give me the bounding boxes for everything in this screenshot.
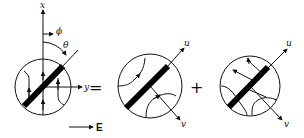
panel-middle: u v [118, 38, 190, 129]
field-line [58, 78, 64, 105]
sample-bar [229, 67, 268, 107]
u-axis-label: u [286, 38, 292, 48]
phi-label: ϕ [56, 26, 62, 36]
sample-bar [126, 66, 168, 108]
field-label: E [96, 122, 103, 133]
v-axis-label: v [284, 119, 289, 129]
theta-label: θ [63, 40, 69, 50]
field-line [248, 58, 262, 74]
field-arrow [233, 70, 254, 81]
v-axis [150, 86, 180, 120]
panel-right: u v [220, 38, 292, 129]
field-arrow [248, 58, 249, 64]
x-axis-label: x [40, 0, 45, 10]
field-arrow [245, 88, 266, 97]
field-arrow [134, 74, 140, 80]
field-line [118, 58, 145, 86]
v-axis-label: v [181, 119, 186, 129]
field-line [146, 94, 176, 117]
field-line [24, 71, 29, 98]
electric-field-indicator: E [69, 122, 103, 133]
diagram-canvas: x y ϕ θ = u v + u [0, 0, 304, 138]
plus-sign: + [190, 78, 203, 97]
panel-left: x y ϕ θ [15, 0, 90, 115]
equals-sign: = [89, 78, 102, 97]
u-axis-label: u [184, 38, 190, 48]
